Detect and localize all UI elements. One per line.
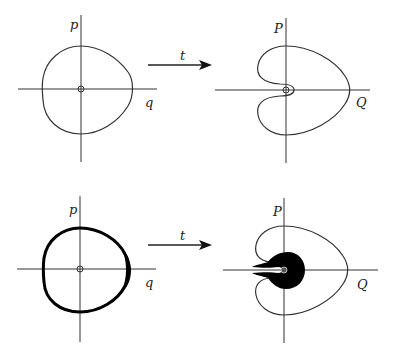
panel-top-left — [18, 15, 157, 162]
panel-top-right — [215, 18, 370, 163]
P-axis-label: P — [274, 22, 283, 35]
panel-bottom-left — [17, 196, 156, 342]
thick-phase-band — [43, 228, 129, 312]
P-axis-label: P — [273, 205, 282, 218]
Q-axis-label: Q — [356, 96, 367, 109]
phase-curve — [42, 46, 132, 134]
arrow-t-label: t — [180, 229, 185, 242]
Q-axis-label: Q — [357, 278, 368, 291]
origin-marker — [281, 267, 287, 273]
panel-bottom-right — [223, 198, 378, 343]
band-thickening — [121, 248, 131, 294]
q-axis-label: q — [145, 276, 153, 289]
q-axis-label: q — [145, 96, 153, 109]
diagram-canvas — [0, 0, 394, 353]
p-axis-label: p — [69, 203, 77, 216]
p-axis-label: p — [70, 18, 78, 31]
arrow-t-label: t — [180, 49, 185, 62]
